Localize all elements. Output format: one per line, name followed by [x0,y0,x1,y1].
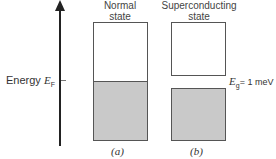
normal-empty-band [93,22,148,82]
caption-a: (a) [111,145,124,157]
energy-axis [59,8,61,146]
normal-state-title: Normalstate [93,0,147,22]
energy-gap-label: Eg= 1 meV [229,75,273,89]
superconducting-empty-band [171,22,226,76]
superconducting-filled-band [171,88,226,141]
caption-b: (b) [190,145,203,157]
normal-filled-band [93,81,148,141]
fermi-energy-label: EF [44,74,55,88]
energy-axis-label: Energy [6,74,41,86]
fermi-level-tick [61,80,66,81]
superconducting-state-title: Superconductingstate [160,0,238,22]
